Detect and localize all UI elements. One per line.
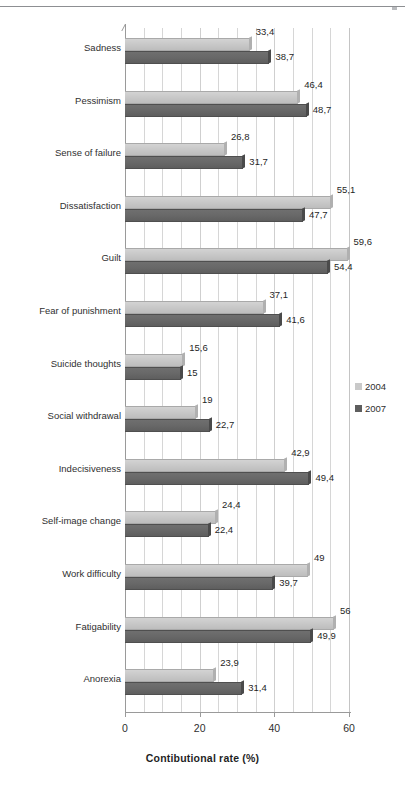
bar-2007[interactable] [125, 682, 242, 695]
bar-value-label: 46,4 [304, 79, 323, 90]
bar-value-label: 56 [340, 605, 351, 616]
bar-depth-cap [224, 141, 227, 156]
legend-label: 2007 [365, 403, 386, 414]
bar-2004[interactable] [125, 354, 183, 367]
category-label: Sadness [0, 42, 121, 53]
bar-value-label: 26,8 [231, 131, 250, 142]
bar-2004[interactable] [125, 196, 331, 209]
bar-row: Pessimism46,448,7 [0, 81, 405, 133]
bar-2004[interactable] [125, 301, 264, 314]
bar-2004[interactable] [125, 91, 298, 104]
bar-2007[interactable] [125, 577, 273, 590]
bar-value-label: 23,9 [220, 657, 239, 668]
bar-value-label: 54,4 [334, 261, 353, 272]
bar-value-label: 31,4 [248, 682, 267, 693]
bar-2004[interactable] [125, 617, 334, 630]
bar-2007[interactable] [125, 419, 210, 432]
bar-row: Fatigability5649,9 [0, 607, 405, 659]
bar-value-label: 38,7 [275, 51, 294, 62]
x-axis-tick-label: 40 [254, 722, 294, 734]
bar-depth-cap [213, 667, 216, 682]
bar-2004[interactable] [125, 564, 308, 577]
bar-value-label: 47,7 [309, 209, 328, 220]
bar-value-label: 22,4 [215, 524, 234, 535]
bar-row: Social withdrawal1922,7 [0, 396, 405, 448]
x-axis-tick-label: 0 [105, 722, 145, 734]
bar-2004[interactable] [125, 38, 250, 51]
category-label: Fatigability [0, 621, 121, 632]
bar-depth-cap [302, 207, 305, 222]
bar-2007[interactable] [125, 524, 209, 537]
x-axis-line [125, 712, 351, 713]
bar-depth-cap [306, 102, 309, 117]
bar-depth-cap [208, 523, 211, 538]
category-label: Anorexia [0, 673, 121, 684]
bar-row: Sadness33,438,7 [0, 28, 405, 80]
bar-value-label: 15 [187, 367, 198, 378]
bar-2007[interactable] [125, 472, 309, 485]
bar-depth-cap [215, 510, 218, 525]
bar-depth-cap [308, 470, 311, 485]
bar-depth-cap [249, 36, 252, 51]
legend-swatch-icon [355, 405, 362, 412]
bar-value-label: 41,6 [286, 314, 305, 325]
bar-2004[interactable] [125, 143, 225, 156]
bar-value-label: 49 [314, 552, 325, 563]
bar-row: Self-image change24,422,4 [0, 501, 405, 553]
category-label: Guilt [0, 252, 121, 263]
bar-2007[interactable] [125, 51, 269, 64]
legend-item-2007[interactable]: 2007 [355, 403, 403, 425]
bar-2007[interactable] [125, 314, 280, 327]
bar-2004[interactable] [125, 459, 285, 472]
bar-2007[interactable] [125, 104, 307, 117]
bar-depth-cap [330, 194, 333, 209]
legend-swatch-icon [355, 383, 362, 390]
bar-value-label: 19 [202, 394, 213, 405]
bar-2004[interactable] [125, 669, 214, 682]
x-axis-tick-label: 60 [329, 722, 369, 734]
bar-2004[interactable] [125, 511, 216, 524]
chart-legend: 20042007 [355, 381, 403, 425]
bar-depth-cap [307, 562, 310, 577]
bar-row: Work difficulty4939,7 [0, 554, 405, 606]
category-label: Suicide thoughts [0, 358, 121, 369]
bar-depth-cap [310, 628, 313, 643]
bar-row: Fear of punishment37,141,6 [0, 291, 405, 343]
bar-value-label: 15,6 [189, 342, 208, 353]
bar-depth-cap [242, 154, 245, 169]
bar-row: Indecisiveness42,949,4 [0, 449, 405, 501]
bar-value-label: 42,9 [291, 447, 310, 458]
bar-depth-cap [333, 615, 336, 630]
bar-depth-cap [279, 312, 282, 327]
bar-2007[interactable] [125, 367, 181, 380]
bar-value-label: 37,1 [270, 289, 289, 300]
category-label: Sense of failure [0, 147, 121, 158]
bar-depth-cap [180, 365, 183, 380]
bar-depth-cap [347, 247, 350, 262]
bar-2004[interactable] [125, 406, 196, 419]
x-axis-tick-label: 20 [180, 722, 220, 734]
bar-depth-cap [195, 404, 198, 419]
x-axis-tick [349, 712, 350, 717]
category-label: Pessimism [0, 95, 121, 106]
bar-row: Sense of failure26,831,7 [0, 133, 405, 185]
bar-value-label: 59,6 [354, 236, 373, 247]
bar-depth-cap [297, 89, 300, 104]
bar-value-label: 22,7 [216, 419, 235, 430]
bar-value-label: 49,4 [315, 472, 334, 483]
bar-2007[interactable] [125, 630, 311, 643]
bar-value-label: 33,4 [256, 26, 275, 37]
category-label: Self-image change [0, 515, 121, 526]
x-axis-tick [200, 712, 201, 717]
legend-label: 2004 [365, 381, 386, 392]
bar-2007[interactable] [125, 261, 328, 274]
category-label: Fear of punishment [0, 305, 121, 316]
bar-row: Anorexia23,931,4 [0, 659, 405, 711]
category-label: Dissatisfaction [0, 200, 121, 211]
bar-2004[interactable] [125, 248, 348, 261]
bar-2007[interactable] [125, 209, 303, 222]
bar-value-label: 49,9 [317, 630, 336, 641]
legend-item-2004[interactable]: 2004 [355, 381, 403, 403]
bar-2007[interactable] [125, 156, 243, 169]
bar-value-label: 48,7 [313, 104, 332, 115]
